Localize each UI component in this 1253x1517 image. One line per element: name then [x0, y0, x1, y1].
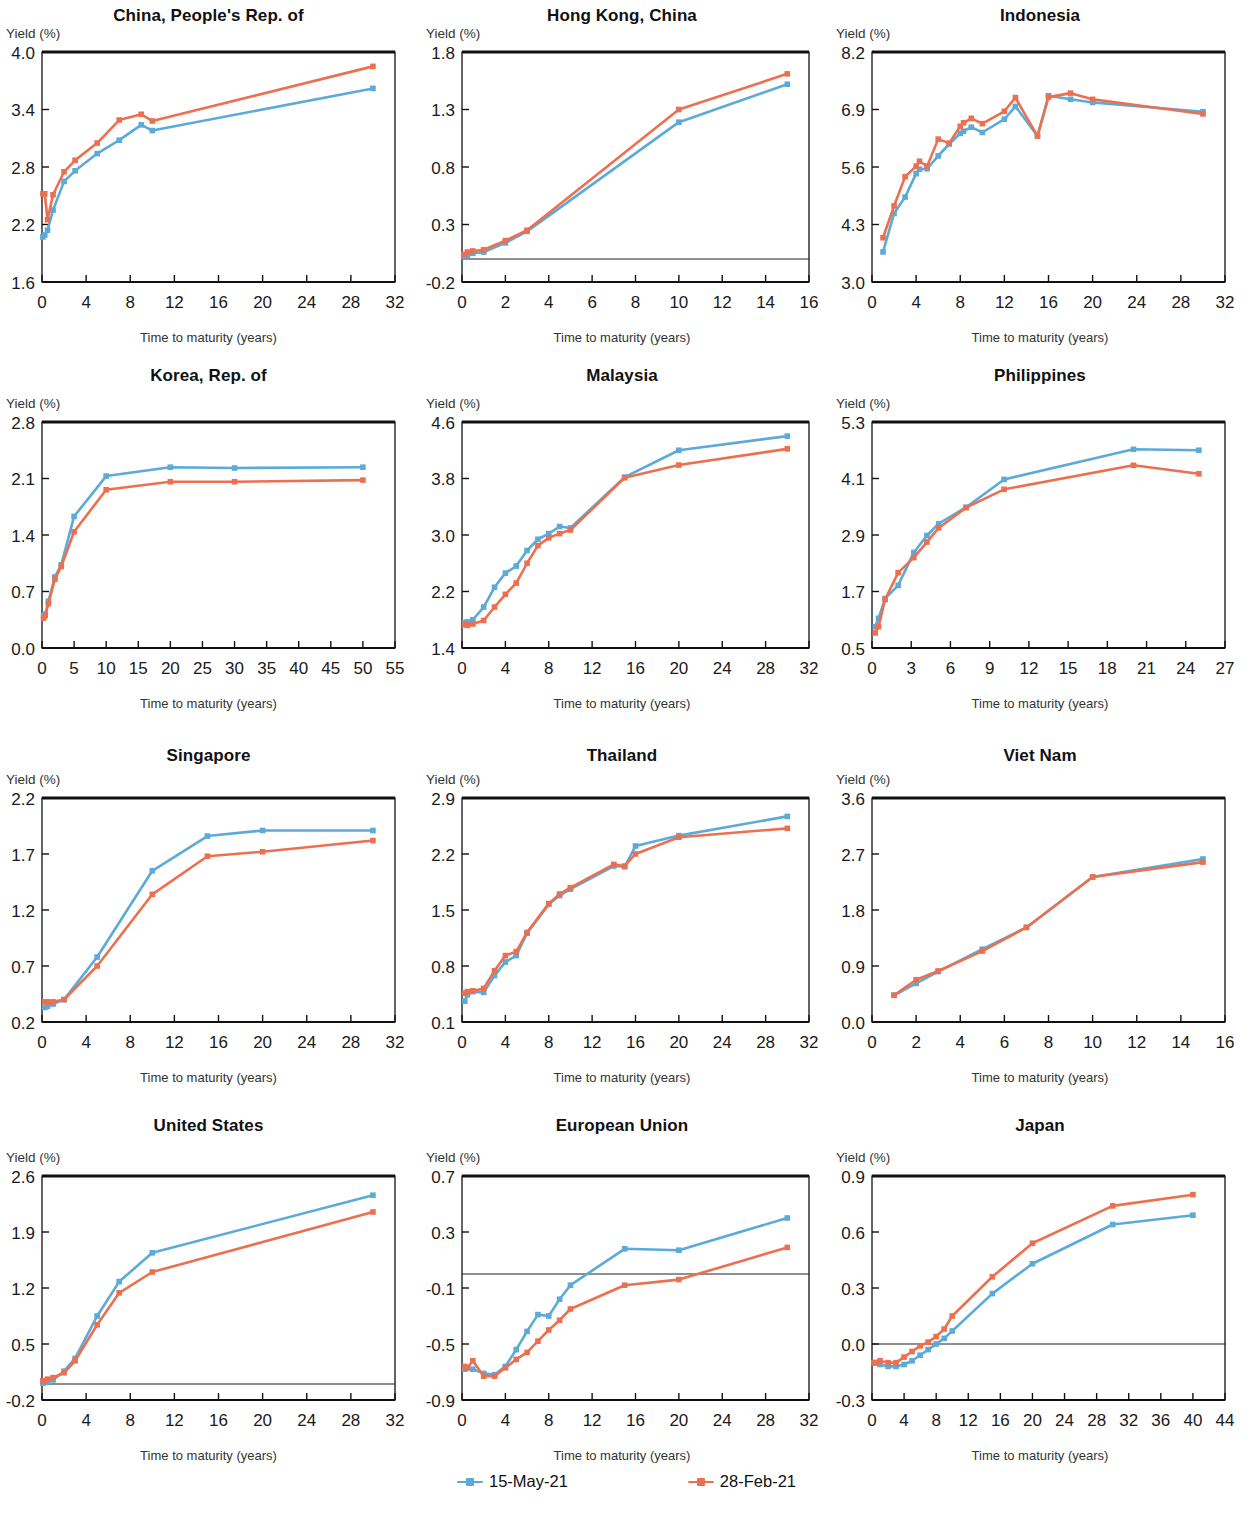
x-tick-label: 12	[583, 1033, 602, 1052]
series-marker	[150, 1250, 156, 1256]
x-tick-label: 16	[209, 1033, 228, 1052]
series-marker	[232, 479, 238, 485]
series-marker	[61, 1370, 67, 1376]
series-marker	[138, 111, 144, 117]
y-axis-label: Yield (%)	[836, 1150, 890, 1165]
series-marker	[205, 853, 211, 859]
legend-item: 28-Feb-21	[688, 1472, 796, 1491]
x-axis-label: Time to maturity (years)	[0, 330, 417, 345]
series-marker	[622, 863, 628, 869]
x-tick-label: 4	[81, 293, 90, 312]
y-tick-label: 2.2	[11, 216, 35, 235]
x-tick-label: 4	[81, 1411, 90, 1430]
series-marker	[968, 124, 974, 130]
y-axis-label: Yield (%)	[6, 1150, 60, 1165]
y-tick-label: 0.8	[431, 958, 455, 977]
chart-panel: China, People's Rep. ofYield (%)04812162…	[0, 0, 417, 360]
x-tick-label: 28	[1171, 293, 1190, 312]
series-marker	[941, 1336, 947, 1342]
series-marker	[71, 514, 77, 520]
series-marker	[785, 814, 791, 820]
series-marker	[1035, 133, 1041, 139]
series-marker	[872, 630, 878, 636]
series-marker	[465, 623, 471, 629]
x-tick-label: 32	[386, 1033, 405, 1052]
x-tick-label: 6	[1000, 1033, 1009, 1052]
x-tick-label: 32	[800, 1033, 819, 1052]
x-tick-label: 4	[956, 1033, 965, 1052]
y-tick-label: 5.6	[841, 159, 865, 178]
series-marker	[513, 1357, 519, 1363]
series-marker	[45, 227, 51, 233]
plot-area: 048121620242832-0.9-0.5-0.10.30.7	[462, 1176, 869, 1450]
x-axis-label: Time to maturity (years)	[417, 1448, 827, 1463]
y-tick-label: 2.1	[11, 470, 35, 489]
series-marker	[61, 169, 67, 175]
plot-area: 048121620242832-0.20.51.21.92.6	[42, 1176, 455, 1450]
y-tick-label: 0.2	[11, 1014, 35, 1033]
y-tick-label: 3.4	[11, 101, 35, 120]
y-tick-label: 0.5	[841, 640, 865, 659]
x-tick-label: 16	[991, 1411, 1010, 1430]
series-marker	[895, 570, 901, 576]
series-marker	[924, 539, 930, 545]
series-marker	[481, 247, 487, 253]
legend-marker-icon	[457, 1475, 483, 1489]
x-tick-label: 2	[501, 293, 510, 312]
series-marker	[232, 465, 238, 471]
x-tick-label: 24	[297, 1033, 316, 1052]
x-tick-label: 24	[713, 1411, 732, 1430]
series-marker	[42, 191, 48, 197]
series-marker	[1131, 447, 1137, 453]
series-marker	[1190, 1212, 1196, 1218]
legend-item: 15-May-21	[457, 1472, 568, 1491]
series-marker	[1200, 859, 1206, 865]
x-tick-label: 16	[626, 1411, 645, 1430]
legend-label: 15-May-21	[489, 1472, 568, 1491]
plot-area: 0246810121416-0.20.30.81.31.8	[462, 52, 869, 332]
series-marker	[557, 531, 563, 537]
series-marker	[50, 192, 56, 198]
series-marker	[676, 447, 682, 453]
series-marker	[150, 128, 156, 134]
series-marker	[877, 1358, 883, 1364]
legend-marker-icon	[688, 1475, 714, 1489]
x-tick-label: 28	[341, 293, 360, 312]
y-tick-label: -0.5	[426, 1336, 455, 1355]
series-marker	[961, 120, 967, 126]
x-axis-label: Time to maturity (years)	[827, 696, 1253, 711]
series-marker	[503, 238, 509, 244]
series-marker	[980, 130, 986, 136]
y-tick-label: 4.1	[841, 470, 865, 489]
series-line-1	[464, 84, 788, 257]
x-tick-label: 12	[165, 293, 184, 312]
x-tick-label: 4	[544, 293, 553, 312]
series-marker	[72, 168, 78, 174]
y-tick-label: 3.0	[841, 274, 865, 293]
series-marker	[1196, 447, 1202, 453]
series-marker	[42, 232, 48, 238]
series-marker	[150, 868, 156, 874]
series-marker	[1190, 1192, 1196, 1198]
y-axis-label: Yield (%)	[426, 396, 480, 411]
x-tick-label: 50	[353, 659, 372, 678]
x-tick-label: 28	[756, 659, 775, 678]
series-marker	[949, 1313, 955, 1319]
y-tick-label: 2.7	[841, 846, 865, 865]
series-marker	[785, 433, 791, 439]
series-marker	[963, 505, 969, 511]
x-tick-label: 28	[1087, 1411, 1106, 1430]
x-tick-label: 12	[1019, 659, 1038, 678]
series-marker	[568, 885, 574, 891]
y-tick-label: 0.7	[431, 1168, 455, 1187]
y-axis-label: Yield (%)	[836, 396, 890, 411]
series-marker	[94, 151, 100, 157]
series-marker	[260, 828, 266, 834]
y-tick-label: 2.2	[11, 790, 35, 809]
series-marker	[370, 1192, 376, 1198]
legend-label: 28-Feb-21	[720, 1472, 796, 1491]
chart-grid: China, People's Rep. ofYield (%)04812162…	[0, 0, 1253, 1500]
series-marker	[150, 118, 156, 124]
series-marker	[676, 1277, 682, 1283]
x-tick-label: 30	[225, 659, 244, 678]
